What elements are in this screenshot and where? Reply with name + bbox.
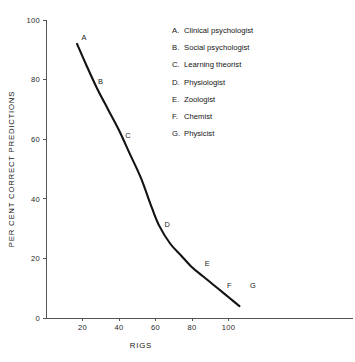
x-tick-label: 60 [151, 323, 160, 332]
legend-label-d: Physiologist [184, 78, 226, 87]
chart-background [0, 0, 355, 362]
chart-figure: 020406080100 PER CENT CORRECT PREDICTION… [0, 0, 355, 362]
x-tick-label: 20 [78, 323, 87, 332]
y-tick-label: 80 [31, 75, 40, 84]
y-tick-label: 0 [35, 314, 40, 323]
point-label-e: E [205, 259, 210, 268]
legend-label-b: Social psychologist [184, 43, 250, 52]
point-label-d: D [164, 220, 169, 229]
legend-letter-a: A. [172, 26, 179, 35]
x-tick-label: 40 [114, 323, 123, 332]
legend-label-g: Physicist [184, 129, 215, 138]
legend-letter-b: B. [172, 43, 179, 52]
legend-label-f: Chemist [184, 112, 213, 121]
y-tick-label: 20 [31, 254, 40, 263]
point-label-c: C [125, 131, 131, 140]
point-label-g: G [250, 281, 256, 290]
y-tick-label: 40 [31, 195, 40, 204]
legend-letter-f: F. [172, 112, 178, 121]
legend-letter-d: D. [172, 78, 180, 87]
point-label-b: B [98, 77, 103, 86]
legend-letter-g: G. [172, 129, 180, 138]
x-tick-label: 80 [187, 323, 196, 332]
legend-letter-e: E. [172, 95, 179, 104]
point-label-f: F [227, 281, 232, 290]
point-label-a: A [82, 33, 87, 42]
legend-label-c: Learning theorist [184, 60, 242, 69]
x-tick-label: 100 [222, 323, 236, 332]
legend-label-e: Zoologist [184, 95, 216, 104]
legend-letter-c: C. [172, 60, 180, 69]
x-axis-title: RIGS [130, 341, 152, 350]
y-tick-label: 60 [31, 135, 40, 144]
y-axis-title: PER CENT CORRECT PREDICTIONS [7, 91, 16, 247]
legend-label-a: Clinical psychologist [184, 26, 254, 35]
y-tick-label: 100 [26, 16, 40, 25]
